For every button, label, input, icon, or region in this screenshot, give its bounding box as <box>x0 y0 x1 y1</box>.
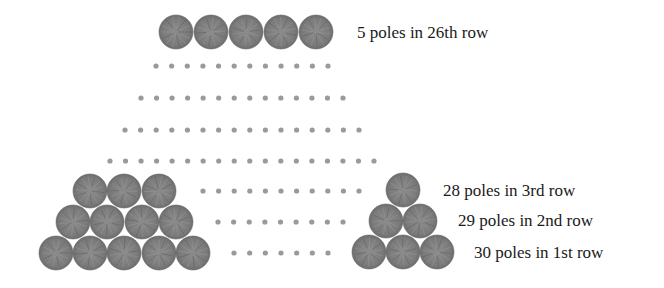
ellipsis-dot-icon <box>309 158 314 163</box>
ellipsis-dot-icon <box>371 158 376 163</box>
top-row-label: 5 poles in 26th row <box>357 24 488 41</box>
ellipsis-dot-icon <box>263 158 268 163</box>
ellipsis-dot-icon <box>170 158 175 163</box>
pole-end-icon <box>369 204 403 238</box>
ellipsis-dot-icon <box>310 250 315 255</box>
ellipsis-dot-icon <box>247 158 252 163</box>
pole-end-icon <box>386 173 420 207</box>
ellipsis-dot-icon <box>262 219 267 224</box>
pole-end-icon <box>142 174 176 208</box>
ellipsis-dot-icon <box>232 95 237 100</box>
ellipsis-dot-icon <box>216 63 221 68</box>
pole-end-icon <box>159 205 193 239</box>
pole-end-icon <box>107 236 141 270</box>
ellipsis-dot-icon <box>169 63 174 68</box>
pole-end-icon <box>142 236 176 270</box>
ellipsis-dot-icon <box>325 250 330 255</box>
ellipsis-dot-icon <box>247 188 252 193</box>
row-1-label: 30 poles in 1st row <box>474 244 603 261</box>
ellipsis-dot-icon <box>247 127 252 132</box>
ellipsis-dot-icon <box>278 219 283 224</box>
ellipsis-dot-icon <box>325 158 330 163</box>
ellipsis-dot-icon <box>216 127 221 132</box>
ellipsis-dot-icon <box>201 158 206 163</box>
ellipsis-dot-icon <box>232 188 237 193</box>
ellipsis-dot-icon <box>278 188 283 193</box>
ellipsis-dot-icon <box>294 250 299 255</box>
pole-end-icon <box>56 205 90 239</box>
ellipsis-dot-icon <box>309 219 314 224</box>
ellipsis-dot-icon <box>278 158 283 163</box>
dot-row <box>200 188 361 193</box>
ellipsis-dot-icon <box>340 219 345 224</box>
ellipsis-dot-icon <box>294 188 299 193</box>
ellipsis-dot-icon <box>154 127 159 132</box>
pole-end-icon <box>386 235 420 269</box>
ellipsis-dot-icon <box>356 127 361 132</box>
row-2-label: 29 poles in 2nd row <box>458 212 593 229</box>
pole-end-icon <box>73 236 107 270</box>
pole-end-icon <box>107 174 141 208</box>
ellipsis-dot-icon <box>231 219 236 224</box>
ellipsis-dot-icon <box>200 188 205 193</box>
ellipsis-dot-icon <box>325 188 330 193</box>
left-pole-stack <box>39 174 210 270</box>
ellipsis-dot-icon <box>122 127 127 132</box>
ellipsis-dot-icon <box>340 158 345 163</box>
ellipsis-dot-icon <box>185 158 190 163</box>
ellipsis-dot-icon <box>294 127 299 132</box>
ellipsis-dot-icon <box>263 95 268 100</box>
right-pole-stack <box>352 173 454 269</box>
pole-end-icon <box>194 15 228 49</box>
pole-end-icon <box>73 174 107 208</box>
dot-row <box>107 158 376 163</box>
ellipsis-dot-icon <box>278 95 283 100</box>
ellipsis-dot-icon <box>216 158 221 163</box>
ellipsis-dot-icon <box>169 127 174 132</box>
ellipsis-dot-icon <box>247 250 252 255</box>
ellipsis-dot-icon <box>294 95 299 100</box>
pole-end-icon <box>125 205 159 239</box>
row-3-label: 28 poles in 3rd row <box>443 182 575 199</box>
ellipsis-dot-icon <box>231 250 236 255</box>
ellipsis-dot-icon <box>278 63 283 68</box>
ellipsis-dot-icon <box>232 158 237 163</box>
ellipsis-dot-icon <box>247 219 252 224</box>
ellipsis-dot-icon <box>263 188 268 193</box>
pole-end-icon <box>264 15 298 49</box>
ellipsis-dot-icon <box>310 188 315 193</box>
pole-end-icon <box>176 236 210 270</box>
ellipsis-dot-icon <box>200 127 205 132</box>
ellipsis-dot-icon <box>278 127 283 132</box>
dot-row <box>153 63 330 68</box>
ellipsis-dot-icon <box>232 127 237 132</box>
ellipsis-dot-icon <box>216 188 221 193</box>
ellipsis-dot-icon <box>340 95 345 100</box>
dot-row <box>138 95 345 100</box>
ellipsis-dot-icon <box>341 127 346 132</box>
ellipsis-dot-icon <box>278 250 283 255</box>
ellipsis-dot-icon <box>294 158 299 163</box>
ellipsis-dot-icon <box>263 63 268 68</box>
dot-row <box>122 127 361 132</box>
pole-end-icon <box>229 15 263 49</box>
ellipsis-dot-icon <box>138 127 143 132</box>
pole-end-icon <box>420 235 454 269</box>
ellipsis-dot-icon <box>325 219 330 224</box>
ellipsis-dot-icon <box>294 63 299 68</box>
ellipsis-dot-icon <box>153 63 158 68</box>
ellipsis-dot-icon <box>185 95 190 100</box>
ellipsis-dot-icon <box>123 158 128 163</box>
ellipsis-dot-icon <box>185 127 190 132</box>
ellipsis-dot-icon <box>341 188 346 193</box>
ellipsis-dot-icon <box>356 158 361 163</box>
ellipsis-dot-icon <box>325 95 330 100</box>
ellipsis-dot-icon <box>310 127 315 132</box>
ellipsis-dot-icon <box>138 158 143 163</box>
ellipsis-dot-icon <box>154 95 159 100</box>
ellipsis-dot-icon <box>216 95 221 100</box>
ellipsis-dot-icon <box>309 95 314 100</box>
pole-end-icon <box>403 204 437 238</box>
dot-row <box>231 250 330 255</box>
ellipsis-dot-icon <box>138 95 143 100</box>
